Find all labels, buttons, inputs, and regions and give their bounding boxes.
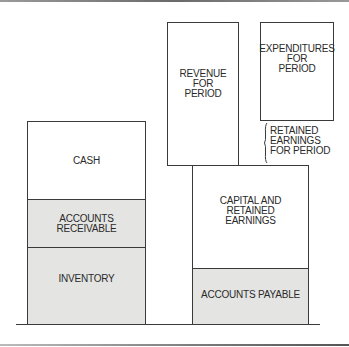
baseline (16, 324, 320, 325)
accounts-payable-box: ACCOUNTS PAYABLE (192, 268, 309, 325)
revenue-box: REVENUE FOR PERIOD (167, 22, 239, 166)
inventory-label: INVENTORY (58, 274, 114, 284)
capital-retained-earnings-label: CAPITAL AND RETAINED EARNINGS (220, 196, 282, 226)
expenditures-box: EXPENDITURES FOR PERIOD (260, 22, 334, 121)
revenue-label: REVENUE FOR PERIOD (180, 69, 227, 99)
expenditures-label: EXPENDITURES FOR PERIOD (259, 44, 334, 74)
inventory-box: INVENTORY (27, 247, 146, 325)
retained-earnings-period-label: RETAINED EARNINGS FOR PERIOD (270, 126, 330, 156)
brace-icon (264, 123, 268, 163)
accounts-receivable-label: ACCOUNTS RECEIVABLE (28, 214, 145, 234)
top-frame-rule (0, 0, 349, 2)
capital-retained-earnings-box: CAPITAL AND RETAINED EARNINGS (192, 165, 309, 269)
cash-label: CASH (73, 156, 100, 166)
accounts-payable-label: ACCOUNTS PAYABLE (201, 290, 300, 300)
cash-box: CASH (27, 121, 146, 200)
bottom-frame-rule (0, 344, 349, 346)
accounts-receivable-box: ACCOUNTS RECEIVABLE (27, 199, 146, 248)
